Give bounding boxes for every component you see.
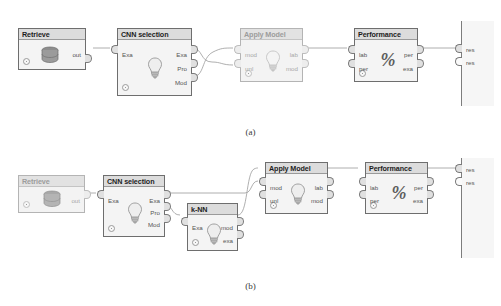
port-label-per-in: per — [370, 198, 379, 204]
node-title-label: Apply Model — [244, 29, 286, 40]
node-apply-model[interactable]: Apply Model mod unl lab mod — [265, 162, 328, 214]
port-result-res-2[interactable] — [455, 177, 462, 186]
node-retrieve[interactable]: Retrieve out — [18, 175, 85, 213]
port-out-pro[interactable] — [164, 202, 171, 211]
port-result-res-1[interactable] — [455, 164, 462, 173]
port-out-exa[interactable] — [164, 190, 171, 199]
port-label-mod-out: Mod — [148, 222, 160, 228]
port-out-out[interactable] — [84, 190, 91, 199]
node-retrieve[interactable]: Retrieve out — [18, 28, 86, 70]
node-title-label: k-NN — [191, 204, 207, 215]
port-out-exa[interactable] — [427, 190, 434, 199]
port-in-exa[interactable] — [97, 190, 104, 199]
port-label-lab-out: lab — [290, 52, 298, 58]
port-in-exa[interactable] — [111, 45, 118, 54]
database-icon — [39, 46, 61, 64]
port-label-per-in: per — [359, 66, 368, 72]
lightbulb-icon — [147, 57, 163, 79]
node-title-bar: Performance — [366, 163, 427, 174]
port-out-mod[interactable] — [327, 190, 334, 199]
port-out-exa[interactable] — [191, 45, 198, 54]
port-in-unl[interactable] — [234, 59, 241, 68]
port-out-lab[interactable] — [302, 45, 309, 54]
port-out-out[interactable] — [85, 54, 92, 63]
port-label-lab-out: lab — [315, 185, 323, 191]
node-title-bar: CNN selection — [104, 176, 164, 187]
node-cnn-selection[interactable]: CNN selection Exa Exa Pro Mod — [103, 175, 165, 237]
status-circle-icon[interactable] — [122, 84, 129, 91]
lightbulb-icon — [290, 183, 306, 205]
port-in-lab[interactable] — [359, 177, 366, 186]
node-cnn-selection[interactable]: CNN selection Exa Exa Pro Mod — [117, 28, 192, 96]
figure-canvas: Retrieve out CNN selection — [0, 0, 501, 306]
port-label-exa-out: Exa — [149, 198, 160, 204]
node-title-bar: Apply Model — [266, 163, 327, 174]
result-label-res-1: res — [466, 47, 475, 53]
port-out-mod[interactable] — [302, 59, 309, 68]
port-out-lab[interactable] — [327, 177, 334, 186]
node-title-label: Apply Model — [269, 163, 311, 174]
lightbulb-icon — [206, 223, 222, 245]
port-label-pro-out: Pro — [150, 210, 160, 216]
port-label-unl-in: unl — [245, 66, 253, 72]
port-out-per[interactable] — [417, 45, 424, 54]
port-result-res-2[interactable] — [455, 57, 462, 66]
node-body: Exa Exa Pro Mod — [104, 187, 164, 236]
result-label-res-2: res — [466, 60, 475, 66]
port-label-exa-in: Exa — [122, 52, 133, 58]
result-label-res-1: res — [466, 167, 475, 173]
port-label-out: out — [72, 52, 81, 58]
node-title-bar: Apply Model — [241, 29, 302, 40]
port-out-exa[interactable] — [237, 230, 244, 239]
port-out-pro[interactable] — [191, 59, 198, 68]
caption-b: (b) — [0, 281, 501, 291]
percent-icon: % — [376, 49, 400, 71]
port-label-exa-out: Exa — [176, 52, 187, 58]
port-label-exa-in: Exa — [108, 198, 119, 204]
wire-cnn-exa-apply-unl — [192, 48, 233, 65]
port-label-mod-out: mod — [286, 66, 298, 72]
node-title-label: Retrieve — [22, 29, 50, 40]
port-out-mod[interactable] — [237, 217, 244, 226]
status-circle-icon[interactable] — [108, 225, 115, 232]
node-title-label: CNN selection — [121, 29, 168, 40]
port-label-exa-out: exa — [403, 66, 413, 72]
node-title-bar: k-NN — [188, 204, 237, 215]
node-title-bar: Retrieve — [19, 176, 84, 187]
svg-text:%: % — [392, 183, 407, 203]
node-performance[interactable]: Performance % lab per per exa — [354, 28, 418, 82]
port-label-mod-in: mod — [245, 52, 257, 58]
status-circle-icon[interactable] — [192, 239, 199, 246]
port-in-mod[interactable] — [234, 45, 241, 54]
port-result-res-1[interactable] — [455, 44, 462, 53]
port-out-per[interactable] — [427, 177, 434, 186]
lightbulb-icon — [265, 50, 281, 72]
wire-knn-mod-apply-mod — [238, 168, 258, 215]
node-title-label: Performance — [358, 29, 401, 40]
node-body: mod unl lab mod — [266, 174, 327, 213]
node-title-label: CNN selection — [107, 176, 154, 187]
port-out-mod[interactable] — [164, 214, 171, 223]
port-in-exa[interactable] — [181, 217, 188, 226]
port-out-mod[interactable] — [191, 73, 198, 82]
node-performance[interactable]: Performance % lab per per exa — [365, 162, 428, 214]
port-in-per[interactable] — [348, 59, 355, 68]
port-in-unl[interactable] — [259, 190, 266, 199]
node-body: Exa Exa Pro Mod — [118, 40, 191, 95]
status-circle-icon[interactable] — [23, 58, 30, 65]
node-title-bar: Retrieve — [19, 29, 85, 40]
status-circle-icon[interactable] — [23, 201, 30, 208]
node-k-nn[interactable]: k-NN Exa mod exa — [187, 203, 238, 251]
port-label-out: out — [71, 198, 80, 204]
node-apply-model[interactable]: Apply Model mod unl lab mod — [240, 28, 303, 82]
port-out-exa[interactable] — [417, 59, 424, 68]
port-in-per[interactable] — [359, 190, 366, 199]
node-body: out — [19, 187, 84, 212]
port-label-mod-out: mod — [311, 198, 323, 204]
port-label-exa-out: exa — [223, 238, 233, 244]
port-label-exa-in: Exa — [192, 225, 203, 231]
wire-cnn-mod-apply-mod — [192, 48, 233, 77]
port-in-mod[interactable] — [259, 177, 266, 186]
port-in-lab[interactable] — [348, 45, 355, 54]
port-label-unl-in: unl — [270, 198, 278, 204]
